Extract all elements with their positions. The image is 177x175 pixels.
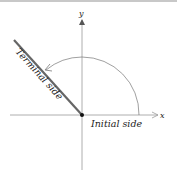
angle-diagram: x y Terminal side Initial side <box>0 0 177 175</box>
y-axis-arrow-icon <box>79 19 85 25</box>
diagram-svg: x y Terminal side Initial side <box>0 0 177 175</box>
y-axis: y <box>78 9 85 170</box>
arc-arrow-icon <box>45 64 52 71</box>
terminal-side-label: Terminal side <box>14 46 66 102</box>
x-axis-label: x <box>160 111 165 120</box>
y-axis-label: y <box>78 9 84 18</box>
vertex-point <box>80 113 84 117</box>
initial-side-label: Initial side <box>90 118 142 129</box>
